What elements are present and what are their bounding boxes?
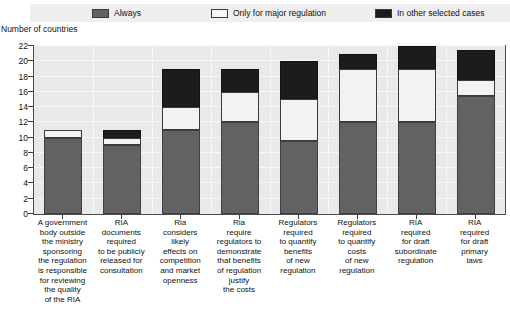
- x-axis-label-line: consultation: [92, 266, 150, 276]
- x-axis-category-label: RIArequiredfor draftprimarylaws: [446, 218, 504, 266]
- x-axis-label-line: competition: [151, 256, 209, 266]
- bar-stack[interactable]: [339, 54, 377, 214]
- x-axis-label-line: documents: [92, 228, 150, 238]
- bar-stack[interactable]: [162, 69, 200, 214]
- x-axis-label-line: laws: [446, 256, 504, 266]
- y-axis-line: [33, 45, 34, 215]
- x-axis-label-line: the regulation: [33, 256, 91, 266]
- x-axis-label-line: regulation: [328, 266, 386, 276]
- bar-segment-major: [103, 138, 141, 146]
- x-axis-label-line: of the RIA: [33, 295, 91, 305]
- x-axis-label-line: of new: [328, 256, 386, 266]
- bar-segment-other: [221, 69, 259, 92]
- bar-segment-always: [457, 96, 495, 214]
- chart-legend: Always Only for major regulation In othe…: [30, 4, 510, 22]
- x-axis-category-label: Riarequireregulators todemonstratethat b…: [210, 218, 268, 295]
- x-axis-label-line: and market: [151, 266, 209, 276]
- bar-segment-other: [457, 50, 495, 81]
- x-axis-label-line: is responsible: [33, 266, 91, 276]
- x-axis-label-line: regulation: [269, 266, 327, 276]
- x-axis-label-line: subordinate: [387, 247, 445, 257]
- x-axis-label-line: Ria: [151, 218, 209, 228]
- y-axis-title: Number of countries: [1, 24, 78, 34]
- bar-segment-major: [221, 92, 259, 123]
- bar-segment-other: [162, 69, 200, 107]
- legend-label-major: Only for major regulation: [233, 9, 326, 18]
- x-axis-label-line: sponsoring: [33, 247, 91, 257]
- x-axis-label-line: the ministry: [33, 237, 91, 247]
- bar-segment-major: [398, 69, 436, 122]
- gridline-vertical: [211, 46, 212, 214]
- bar-segment-major: [339, 69, 377, 122]
- x-axis-label-line: required: [387, 228, 445, 238]
- x-axis-label-line: required: [328, 228, 386, 238]
- x-axis-label-line: that benefits: [210, 256, 268, 266]
- y-axis-tick-label: 2: [0, 194, 28, 204]
- gridline-vertical: [270, 46, 271, 214]
- x-axis-label-line: likely: [151, 237, 209, 247]
- y-axis-tick-label: 10: [0, 133, 28, 143]
- bar-stack[interactable]: [44, 130, 82, 214]
- x-axis-category-label: Regulatorsrequiredto quantifybenefitsof …: [269, 218, 327, 276]
- x-axis-label-line: regulators to: [210, 237, 268, 247]
- x-axis-label-line: of new: [269, 256, 327, 266]
- legend-label-other: In other selected cases: [397, 9, 484, 18]
- legend-label-always: Always: [114, 9, 141, 18]
- gridline-vertical: [446, 46, 447, 214]
- bar-segment-other: [280, 61, 318, 99]
- bar-segment-always: [280, 141, 318, 214]
- bar-segment-other: [339, 54, 377, 69]
- bar-stack[interactable]: [103, 130, 141, 214]
- x-axis-label-line: benefits: [269, 247, 327, 257]
- legend-entry-major: Only for major regulation: [211, 9, 326, 18]
- x-axis-label-line: Regulators: [328, 218, 386, 228]
- bar-stack[interactable]: [457, 50, 495, 214]
- bar-segment-always: [103, 145, 141, 214]
- x-axis-label-line: required: [446, 228, 504, 238]
- gridline-vertical: [152, 46, 153, 214]
- y-axis-tick-label: 22: [0, 41, 28, 51]
- bar-segment-major: [162, 107, 200, 130]
- legend-swatch-major: [211, 9, 228, 18]
- x-axis-label-line: Regulators: [269, 218, 327, 228]
- x-axis-label-line: for draft: [387, 237, 445, 247]
- x-axis-label-line: for reviewing: [33, 276, 91, 286]
- legend-swatch-other: [375, 9, 392, 18]
- plot-area-wrapper: [0, 40, 510, 216]
- x-axis-category-label: A governmentbody outsidethe ministryspon…: [33, 218, 91, 304]
- gridline-vertical: [93, 46, 94, 214]
- bar-segment-other: [103, 130, 141, 138]
- bar-stack[interactable]: [398, 46, 436, 214]
- x-axis-label-line: justify: [210, 276, 268, 286]
- y-axis-tick-label: 8: [0, 148, 28, 158]
- bar-segment-always: [44, 138, 82, 214]
- x-axis-label-line: effects on: [151, 247, 209, 257]
- bar-stack[interactable]: [221, 69, 259, 214]
- bar-segment-always: [221, 122, 259, 214]
- x-axis-label-line: Ria: [210, 218, 268, 228]
- y-axis-tick-label: 18: [0, 72, 28, 82]
- y-axis-tick-label: 14: [0, 102, 28, 112]
- bar-stack[interactable]: [280, 61, 318, 214]
- bar-segment-major: [44, 130, 82, 138]
- x-axis-category-label: Riaconsiderslikelyeffects oncompetitiona…: [151, 218, 209, 285]
- y-axis-tick-label: 0: [0, 209, 28, 219]
- x-axis-label-line: A government: [33, 218, 91, 228]
- x-axis-label-line: to quantify: [269, 237, 327, 247]
- x-axis-label-line: RIA: [387, 218, 445, 228]
- legend-entry-always: Always: [92, 9, 141, 18]
- plot-area: [33, 45, 506, 215]
- x-axis-label-line: costs: [328, 247, 386, 257]
- x-axis-label-line: require: [210, 228, 268, 238]
- x-axis-labels: A governmentbody outsidethe ministryspon…: [33, 218, 506, 316]
- x-axis-category-label: RIAdocumentsrequiredto be publiclyreleas…: [92, 218, 150, 276]
- x-axis-label-line: RIA: [92, 218, 150, 228]
- x-axis-label-line: to quantify: [328, 237, 386, 247]
- x-axis-label-line: body outside: [33, 228, 91, 238]
- y-axis-tick-label: 4: [0, 178, 28, 188]
- y-axis-tick-label: 12: [0, 117, 28, 127]
- x-axis-label-line: required: [269, 228, 327, 238]
- bar-segment-always: [339, 122, 377, 214]
- x-axis-category-label: Regulatorsrequiredto quantifycostsof new…: [328, 218, 386, 276]
- x-axis-label-line: RIA: [446, 218, 504, 228]
